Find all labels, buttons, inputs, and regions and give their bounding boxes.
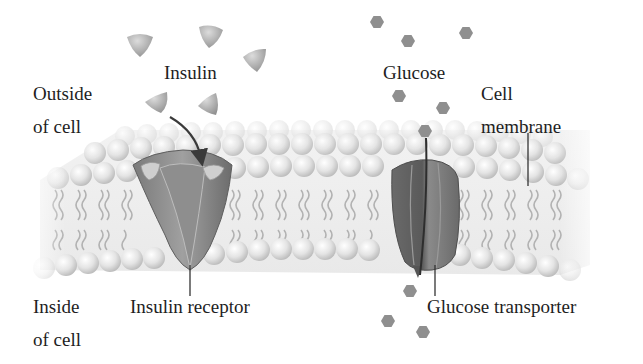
triangle-icon (243, 49, 266, 72)
hexagon-icon (403, 285, 417, 297)
label-glucose: Glucose (383, 56, 445, 89)
label-outside-line-1: Outside (33, 77, 92, 110)
glucose-molecules-inside (381, 285, 430, 338)
membrane-diagram: Insulin Glucose Outside of cell Cell mem… (0, 0, 643, 364)
label-membrane-line-1: Cell (481, 77, 561, 110)
label-insulin: Insulin (164, 56, 217, 89)
hexagon-icon (381, 315, 395, 327)
triangle-icon (127, 34, 153, 57)
hexagon-icon (370, 16, 384, 28)
hexagon-icon (416, 326, 430, 338)
label-inside-line-2: of cell (33, 323, 81, 356)
lipid-bilayer (20, 120, 605, 285)
label-outside-line-2: of cell (33, 110, 92, 143)
hexagon-icon (436, 102, 450, 114)
label-inside-line-1: Inside (33, 290, 81, 323)
label-insulin-receptor: Insulin receptor (130, 290, 250, 323)
label-glucose-transporter: Glucose transporter (427, 290, 576, 323)
triangle-icon (145, 92, 167, 113)
triangle-icon (199, 26, 223, 48)
label-inside-of-cell: Inside of cell (33, 290, 81, 356)
hexagon-icon (401, 35, 415, 47)
hexagon-icon (459, 27, 473, 39)
label-membrane-line-2: membrane (481, 110, 561, 143)
hexagon-icon (392, 90, 406, 102)
triangle-icon (198, 93, 218, 115)
label-outside-of-cell: Outside of cell (33, 77, 92, 143)
label-cell-membrane: Cell membrane (481, 77, 561, 143)
